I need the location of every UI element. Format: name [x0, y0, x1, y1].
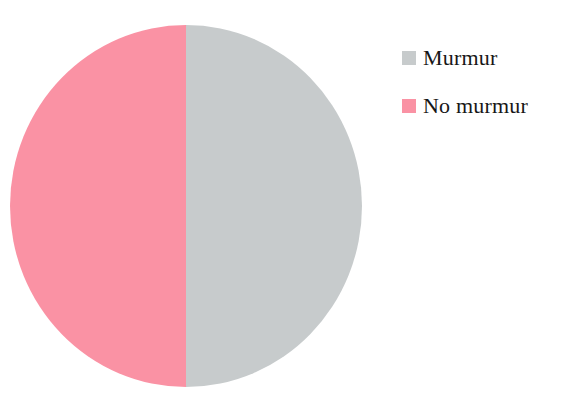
legend-swatch-no-murmur: [402, 99, 416, 113]
legend-swatch-murmur: [402, 51, 416, 65]
legend-item-no-murmur[interactable]: No murmur: [402, 82, 564, 130]
chart-legend: Murmur No murmur: [402, 34, 564, 130]
legend-item-murmur[interactable]: Murmur: [402, 34, 564, 82]
pie-slice-no-murmur: [10, 25, 186, 387]
pie-chart-figure: Murmur No murmur: [0, 0, 568, 408]
pie-chart-svg: [10, 25, 362, 387]
pie-slice-murmur: [186, 25, 362, 387]
pie-chart-plot-area: [10, 25, 362, 387]
legend-label-murmur: Murmur: [423, 47, 498, 69]
legend-label-no-murmur: No murmur: [423, 95, 528, 117]
